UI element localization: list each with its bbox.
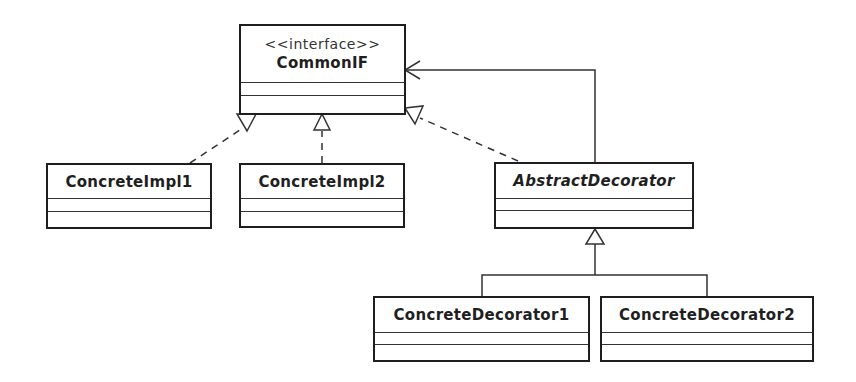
- attributes-compartment: [602, 333, 812, 345]
- attributes-compartment: [241, 199, 403, 212]
- operations-compartment: [602, 345, 812, 360]
- attributes-compartment: [496, 199, 692, 211]
- class-box-commonif[interactable]: <<interface>> CommonIF: [239, 24, 406, 115]
- class-name-compartment: ConcreteDecorator1: [375, 298, 588, 333]
- operations-compartment: [48, 212, 210, 227]
- association-absdec-commonif: [405, 61, 595, 163]
- realization-impl2-commonif: [314, 114, 330, 163]
- class-name: ConcreteDecorator2: [619, 306, 795, 324]
- generalization-decorators-absdec: [482, 229, 707, 297]
- stereotype-label: <<interface>>: [265, 36, 381, 52]
- attributes-compartment: [48, 199, 210, 212]
- operations-compartment: [241, 96, 404, 113]
- class-name-compartment: <<interface>> CommonIF: [241, 26, 404, 83]
- class-name: ConcreteImpl1: [65, 173, 192, 191]
- class-box-concretedecorator1[interactable]: ConcreteDecorator1: [373, 296, 590, 362]
- class-name-compartment: ConcreteDecorator2: [602, 298, 812, 333]
- class-name: ConcreteImpl2: [258, 173, 385, 191]
- class-box-concretedecorator2[interactable]: ConcreteDecorator2: [600, 296, 814, 362]
- class-box-concreteimpl2[interactable]: ConcreteImpl2: [239, 163, 405, 228]
- operations-compartment: [375, 345, 588, 360]
- attributes-compartment: [375, 333, 588, 345]
- realization-absdec-commonif: [405, 106, 518, 161]
- class-name-compartment: AbstractDecorator: [496, 164, 692, 199]
- hollow-triangle-arrowhead-icon: [237, 114, 256, 131]
- class-name: CommonIF: [277, 54, 369, 72]
- attributes-compartment: [241, 83, 404, 96]
- class-name: AbstractDecorator: [513, 172, 674, 190]
- hollow-triangle-arrowhead-icon: [586, 229, 604, 244]
- operations-compartment: [496, 211, 692, 227]
- operations-compartment: [241, 212, 403, 226]
- class-name-compartment: ConcreteImpl2: [241, 165, 403, 199]
- class-box-abstractdecorator[interactable]: AbstractDecorator: [494, 162, 694, 229]
- hollow-triangle-arrowhead-icon: [405, 106, 423, 124]
- class-name-compartment: ConcreteImpl1: [48, 165, 210, 199]
- class-name: ConcreteDecorator1: [394, 306, 570, 324]
- class-box-concreteimpl1[interactable]: ConcreteImpl1: [46, 163, 212, 229]
- hollow-triangle-arrowhead-icon: [314, 114, 330, 130]
- realization-impl1-commonif: [190, 114, 256, 163]
